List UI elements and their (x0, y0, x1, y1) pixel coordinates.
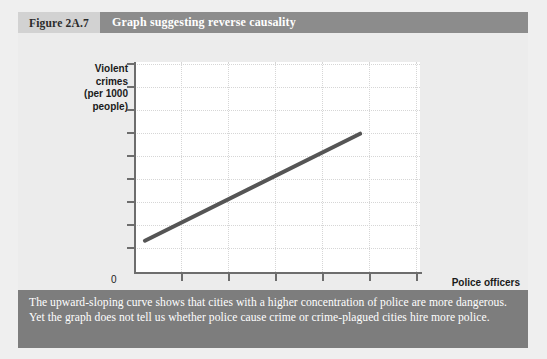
y-axis-title-line-2: crimes (48, 76, 128, 89)
chart-body: Violent crimes (per 1000 people) (18, 33, 528, 290)
y-axis-title-line-3: (per 1000 (48, 88, 128, 101)
figure-panel: Figure 2A.7 Graph suggesting reverse cau… (18, 12, 528, 348)
y-axis-tick (127, 86, 134, 88)
data-series-line (134, 62, 422, 276)
y-axis-title: Violent crimes (per 1000 people) (48, 63, 128, 113)
y-axis-tick (127, 109, 134, 111)
figure-caption-band: The upward-sloping curve shows that citi… (18, 290, 528, 348)
y-axis-tick (127, 201, 134, 203)
figure-header: Figure 2A.7 Graph suggesting reverse cau… (18, 12, 528, 33)
y-axis-tick (127, 132, 134, 134)
y-axis-tick (127, 247, 134, 249)
y-axis-tick (127, 63, 134, 65)
y-axis-tick (127, 224, 134, 226)
y-axis-tick (127, 178, 134, 180)
y-axis-tick (127, 155, 134, 157)
figure-title: Graph suggesting reverse causality (100, 12, 528, 33)
x-axis-title-line-1: Police officers (248, 277, 520, 290)
figure-number-label: Figure 2A.7 (18, 12, 100, 33)
figure-caption-text: The upward-sloping curve shows that citi… (29, 296, 516, 325)
y-axis-title-line-4: people) (48, 101, 128, 114)
y-axis-title-line-1: Violent (48, 63, 128, 76)
origin-label: 0 (111, 274, 117, 285)
